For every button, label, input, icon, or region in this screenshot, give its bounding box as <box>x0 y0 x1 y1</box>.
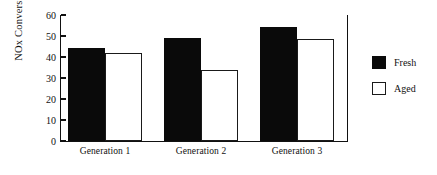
bar-fresh-2 <box>164 38 201 141</box>
bar-aged-2 <box>201 70 238 141</box>
y-axis-tick-label: 20 <box>46 94 56 105</box>
plot-area: 0102030405060 Generation 1Generation 2Ge… <box>60 15 348 141</box>
y-axis-tick-label: 30 <box>46 73 56 84</box>
bar-aged-1 <box>105 53 142 141</box>
x-axis-label-1: Generation 1 <box>80 146 131 156</box>
legend-item-aged: Aged <box>372 82 416 95</box>
y-axis-tick-label: 50 <box>46 31 56 42</box>
chart-legend: FreshAged <box>372 56 416 108</box>
bar-chart-figure: NOx Conversion (%) 0102030405060 Generat… <box>0 0 437 175</box>
y-axis-tick-mark <box>61 14 66 15</box>
y-axis-tick-label: 10 <box>46 115 56 126</box>
legend-label-aged: Aged <box>394 83 416 94</box>
y-axis-tick-mark <box>61 98 66 99</box>
legend-item-fresh: Fresh <box>372 56 416 69</box>
y-axis-tick-mark <box>61 77 66 78</box>
y-axis-tick-mark <box>61 140 66 141</box>
right-axis-line <box>347 15 348 141</box>
x-axis-label-2: Generation 2 <box>176 146 227 156</box>
bar-fresh-3 <box>260 27 297 141</box>
y-axis-tick-mark <box>61 35 66 36</box>
bar-aged-3 <box>297 39 334 141</box>
y-axis-tick-mark <box>61 56 66 57</box>
y-axis-tick-label: 0 <box>51 136 56 147</box>
y-axis-tick-label: 40 <box>46 52 56 63</box>
legend-label-fresh: Fresh <box>394 57 416 68</box>
y-axis-tick-label: 60 <box>46 10 56 21</box>
x-axis-label-3: Generation 3 <box>272 146 323 156</box>
bar-fresh-1 <box>68 48 105 141</box>
legend-swatch-fresh <box>372 56 386 69</box>
x-axis-line <box>60 141 348 142</box>
legend-swatch-aged <box>372 82 386 95</box>
y-axis-tick-mark <box>61 119 66 120</box>
